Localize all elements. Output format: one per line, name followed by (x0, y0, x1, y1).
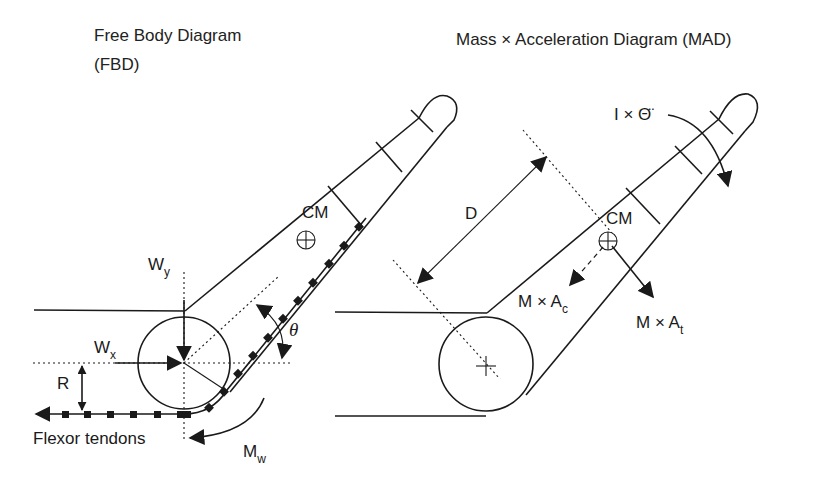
mad-center-of-mass-icon (599, 232, 617, 250)
mw-moment-arrow (190, 398, 264, 438)
inertia-moment-arrow (668, 115, 728, 186)
d-label: D (465, 204, 477, 223)
joint-center-cross-icon (476, 356, 496, 376)
d-reference-line-proximal (393, 260, 500, 379)
theta-label: θ (289, 319, 298, 340)
inertia-label: I × Θ̈ (614, 105, 654, 124)
mac-label: M × Ac (518, 292, 568, 316)
fbd-title-line2: (FBD) (94, 55, 139, 74)
flexor-tendon-path (36, 218, 366, 418)
radius-line (184, 363, 225, 390)
finger-outline (185, 95, 457, 392)
mat-label: M × At (636, 313, 684, 337)
r-label: R (57, 374, 69, 393)
mad-finger-outline (487, 94, 757, 395)
mw-label: Mw (243, 442, 266, 466)
d-reference-line-distal (523, 130, 612, 233)
fbd-title-line1: Free Body Diagram (94, 26, 241, 45)
mass-acceleration-diagram: Mass × Acceleration Diagram (MAD) D CM (335, 30, 757, 416)
d-dimension-arrow (418, 157, 546, 283)
tangential-acceleration-arrow (612, 246, 653, 297)
flexor-tendons-label: Flexor tendons (33, 429, 145, 448)
fbd-center-of-mass-icon (297, 231, 315, 249)
free-body-diagram: Free Body Diagram (FBD) CM (33, 26, 457, 466)
wy-label: Wy (148, 255, 170, 279)
fbd-cm-label: CM (302, 203, 328, 222)
forearm-upper-edge (34, 310, 185, 311)
mad-cm-label: CM (606, 209, 632, 228)
mad-forearm-upper-edge (335, 312, 487, 313)
diagram-canvas: Free Body Diagram (FBD) CM (0, 0, 824, 485)
centripetal-acceleration-arrow (570, 247, 603, 285)
wx-label: Wx (94, 338, 116, 362)
mad-title: Mass × Acceleration Diagram (MAD) (456, 30, 731, 49)
